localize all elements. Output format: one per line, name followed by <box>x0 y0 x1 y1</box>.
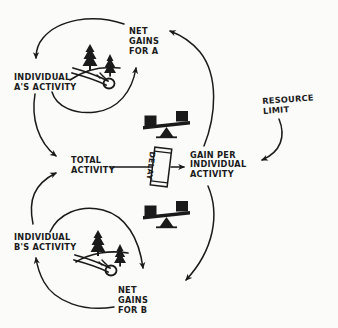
diagram-canvas: NET GAINS FOR A INDIVIDUAL A's ACTIVITY … <box>0 0 338 328</box>
node-label-individual-a-activity: INDIVIDUAL A's ACTIVITY <box>14 72 76 92</box>
link-gain-per-individual-to-net-gains-b <box>186 186 214 280</box>
balance-scale-icon <box>143 111 190 138</box>
link-individual-b-to-total-activity <box>31 173 56 224</box>
causal-loop-diagram-svg <box>0 0 338 328</box>
logging-trees-icon <box>70 44 120 89</box>
node-label-resource-limit: RESOURCE LIMIT <box>262 92 315 116</box>
balance-scale-icon <box>143 201 190 228</box>
node-label-net-gains-b: NET GAINS FOR B <box>118 285 148 315</box>
link-gain-per-individual-to-net-gains-a <box>170 31 214 146</box>
link-individual-a-to-total-activity <box>34 94 56 156</box>
node-label-gain-per-individual-activity: GAIN PER INDIVIDUAL ACTIVITY <box>190 151 246 179</box>
node-label-individual-b-activity: INDIVIDUAL B's ACTIVITY <box>14 232 76 252</box>
logging-trees-icon <box>74 230 128 276</box>
link-resource-limit-to-gain-per-individual <box>262 119 282 160</box>
node-label-net-gains-a: NET GAINS FOR A <box>129 26 159 56</box>
node-label-total-activity: TOTAL ACTIVITY <box>71 155 115 175</box>
link-net-gains-a-to-individual-a <box>36 19 124 58</box>
